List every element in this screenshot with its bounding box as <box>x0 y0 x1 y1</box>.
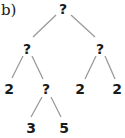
node-left-right: ? <box>42 82 50 96</box>
node-right: ? <box>96 42 104 56</box>
edge-left-leftleft <box>12 56 23 78</box>
edge-root-left <box>33 15 56 37</box>
node-root: ? <box>59 2 67 16</box>
edge-left-leftright <box>32 56 43 79</box>
edge-right-rightleft <box>85 56 96 79</box>
node-left: ? <box>23 42 31 56</box>
node-left-left: 2 <box>4 82 14 96</box>
edge-mid-three <box>31 97 42 117</box>
edge-right-rightright <box>105 56 115 79</box>
tree-edges <box>0 0 125 138</box>
node-right-right: 2 <box>112 82 122 96</box>
node-right-left: 2 <box>75 82 85 96</box>
edge-root-right <box>71 15 95 37</box>
node-leaf-three: 3 <box>26 121 36 135</box>
node-leaf-five: 5 <box>59 121 69 135</box>
edge-mid-five <box>51 97 61 117</box>
